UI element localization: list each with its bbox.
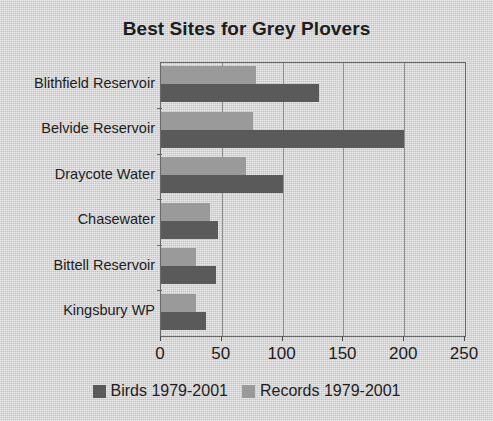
bar-birds-blithfield-reservoir[interactable]: [161, 84, 319, 102]
legend-swatch-icon-birds: [93, 385, 106, 398]
bar-records-chasewater[interactable]: [161, 203, 210, 221]
x-axis-tick-200: [403, 336, 404, 341]
x-axis-label-100: 100: [267, 344, 295, 364]
chart-legend: Birds 1979-2001 Records 1979-2001: [0, 382, 493, 400]
bar-group-bittell-reservoir: [161, 245, 465, 291]
x-axis-tick-50: [221, 336, 222, 341]
y-axis-label-bittell-reservoir: Bittell Reservoir: [3, 257, 155, 273]
legend-label-birds: Birds 1979-2001: [111, 382, 228, 400]
x-axis-label-50: 50: [211, 344, 230, 364]
y-axis-label-belvide-reservoir: Belvide Reservoir: [3, 120, 155, 136]
bar-group-kingsbury-wp: [161, 291, 465, 337]
y-axis-label-blithfield-reservoir: Blithfield Reservoir: [3, 75, 155, 91]
bar-birds-chasewater[interactable]: [161, 221, 218, 239]
x-axis-label-250: 250: [450, 344, 478, 364]
legend-item-records[interactable]: Records 1979-2001: [242, 382, 401, 400]
chart-container: Best Sites for Grey Plovers Blithfield R…: [0, 0, 493, 421]
x-axis-tick-150: [342, 336, 343, 341]
x-axis-tick-250: [464, 336, 465, 341]
bar-records-bittell-reservoir[interactable]: [161, 248, 196, 266]
chart-title: Best Sites for Grey Plovers: [0, 18, 493, 40]
bar-records-draycote-water[interactable]: [161, 157, 246, 175]
bar-records-kingsbury-wp[interactable]: [161, 294, 196, 312]
x-axis-tick-0: [160, 336, 161, 341]
plot-area: [160, 62, 466, 337]
x-axis-label-150: 150: [328, 344, 356, 364]
bar-birds-draycote-water[interactable]: [161, 175, 283, 193]
y-axis-label-draycote-water: Draycote Water: [3, 166, 155, 182]
y-axis-category-labels: Blithfield Reservoir Belvide Reservoir D…: [0, 62, 155, 335]
legend-item-birds[interactable]: Birds 1979-2001: [93, 382, 228, 400]
bar-group-chasewater: [161, 200, 465, 246]
bar-group-belvide-reservoir: [161, 109, 465, 155]
bar-birds-belvide-reservoir[interactable]: [161, 130, 404, 148]
bar-group-draycote-water: [161, 154, 465, 200]
x-axis-tick-100: [282, 336, 283, 341]
bar-group-blithfield-reservoir: [161, 63, 465, 109]
bar-birds-kingsbury-wp[interactable]: [161, 312, 206, 330]
x-axis-label-0: 0: [155, 344, 164, 364]
x-axis-label-200: 200: [389, 344, 417, 364]
bar-records-belvide-reservoir[interactable]: [161, 112, 253, 130]
legend-label-records: Records 1979-2001: [260, 382, 401, 400]
y-axis-label-kingsbury-wp: Kingsbury WP: [3, 302, 155, 318]
bar-birds-bittell-reservoir[interactable]: [161, 266, 216, 284]
y-axis-label-chasewater: Chasewater: [3, 211, 155, 227]
legend-swatch-icon-records: [242, 385, 255, 398]
bar-records-blithfield-reservoir[interactable]: [161, 66, 256, 84]
x-axis: 0 50 100 150 200 250: [160, 336, 465, 366]
